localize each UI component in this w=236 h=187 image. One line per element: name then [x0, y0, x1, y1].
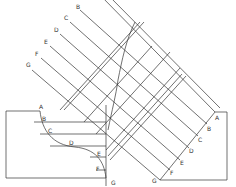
auxiliary-projection-drawing: B C D E F G A B C D E F G A B C D E F G: [0, 0, 236, 187]
label-aux-c: C: [198, 136, 202, 143]
label-front-e: E: [97, 150, 101, 157]
label-top-g: G: [26, 61, 31, 68]
perp-2: [64, 22, 144, 110]
label-front-b: B: [42, 115, 46, 122]
perp-1: [60, 22, 140, 110]
label-top-d: D: [54, 26, 59, 33]
label-top-e: E: [44, 38, 48, 45]
label-top-b: B: [76, 3, 80, 10]
label-front-c: C: [48, 127, 52, 134]
auxiliary-edge: [160, 112, 215, 180]
front-view: [6, 105, 106, 186]
label-front-f: F: [96, 165, 100, 172]
label-top-c: C: [64, 14, 68, 21]
label-aux-b: B: [207, 125, 211, 132]
perp-5: [106, 68, 180, 150]
label-aux-f: F: [170, 169, 174, 176]
label-aux-g: G: [152, 177, 157, 184]
label-front-d: D: [69, 139, 74, 146]
label-aux-d: D: [189, 147, 194, 154]
projector-labels: B C D E F G: [26, 3, 80, 68]
projector-a: [100, 0, 215, 112]
projector-a2: [108, 0, 220, 108]
label-aux-a: A: [215, 114, 220, 121]
label-front-g: G: [111, 179, 116, 186]
label-top-f: F: [35, 50, 39, 57]
label-aux-e: E: [180, 159, 184, 166]
front-view-labels: A B C D E F G: [39, 103, 116, 186]
label-front-a: A: [39, 103, 44, 110]
